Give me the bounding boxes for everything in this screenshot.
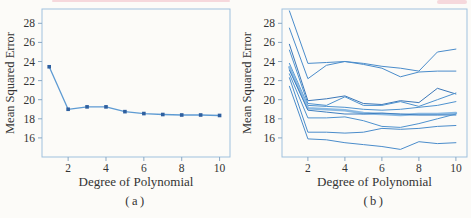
plot-frame [42, 9, 230, 157]
y-tick-label: 22 [264, 75, 276, 87]
chart-panel-a: 16182022242628246810 Mean Squared Error … [0, 0, 236, 218]
y-axis-label: Mean Squared Error [3, 32, 18, 134]
y-tick-label: 28 [24, 17, 36, 29]
y-tick-label: 18 [24, 113, 36, 125]
data-point-marker [66, 107, 70, 111]
panel-caption: (b) [282, 194, 467, 209]
x-tick-label: 4 [103, 162, 109, 174]
y-tick-label: 26 [24, 36, 36, 48]
mse-plot-a: 16182022242628246810 [0, 0, 236, 175]
y-axis-label: Mean Squared Error [240, 32, 255, 134]
data-point-marker [123, 110, 127, 114]
y-tick-label: 28 [264, 17, 276, 29]
plot-frame [282, 9, 467, 157]
y-tick-label: 20 [24, 94, 36, 106]
chart-panel-b: 16182022242628246810 Mean Squared Error … [235, 0, 471, 218]
x-axis-label: Degree of Polynomial [282, 174, 467, 190]
y-tick-label: 16 [264, 132, 276, 144]
series-line-split-1 [289, 11, 456, 71]
series-line-split-8 [289, 74, 456, 128]
data-point-marker [104, 105, 108, 109]
x-tick-label: 2 [65, 162, 71, 174]
x-tick-label: 8 [416, 162, 422, 174]
data-point-marker [85, 105, 89, 109]
series-line-split-2 [289, 28, 456, 79]
series-line-split-5 [289, 63, 456, 110]
x-tick-label: 6 [141, 162, 147, 174]
x-axis-label: Degree of Polynomial [42, 174, 230, 190]
y-tick-label: 18 [264, 113, 276, 125]
x-tick-label: 10 [450, 162, 462, 174]
x-tick-label: 8 [179, 162, 185, 174]
y-tick-label: 26 [264, 36, 276, 48]
data-point-marker [180, 113, 184, 117]
data-point-marker [199, 113, 203, 117]
data-point-marker [142, 112, 146, 116]
x-tick-label: 10 [214, 162, 226, 174]
y-tick-label: 16 [24, 132, 36, 144]
x-tick-label: 2 [305, 162, 311, 174]
series-line-validation-set-mse [49, 67, 219, 116]
x-tick-label: 4 [342, 162, 348, 174]
x-tick-label: 6 [379, 162, 385, 174]
data-point-marker [47, 65, 51, 69]
mse-plot-b: 16182022242628246810 [235, 0, 471, 175]
data-point-marker [161, 113, 165, 117]
y-tick-label: 22 [24, 75, 36, 87]
data-point-marker [218, 114, 222, 118]
y-tick-label: 24 [24, 56, 36, 68]
panel-caption: (a) [42, 194, 230, 209]
y-tick-label: 24 [264, 56, 276, 68]
y-tick-label: 20 [264, 94, 276, 106]
